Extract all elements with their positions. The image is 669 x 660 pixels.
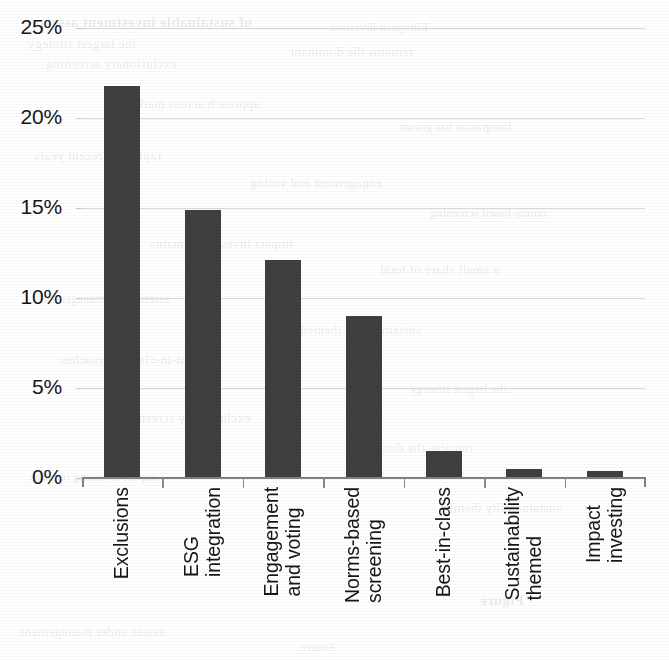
x-axis-category-label: ESG integration xyxy=(181,487,225,577)
y-axis-tick-label: 0% xyxy=(32,466,62,487)
x-axis-category-label: Impact investing xyxy=(583,487,627,563)
x-axis-left-endcap xyxy=(82,477,84,487)
gridline xyxy=(82,208,645,209)
x-axis-tick xyxy=(323,478,324,488)
bar xyxy=(265,260,301,478)
x-axis-right-endcap xyxy=(644,477,646,487)
x-axis-tick xyxy=(565,478,566,488)
bar xyxy=(104,86,140,478)
x-axis-line xyxy=(82,477,646,479)
y-axis-tick-label: 15% xyxy=(21,196,62,217)
bar xyxy=(185,210,221,478)
y-axis-tick-label: 20% xyxy=(21,106,62,127)
plot-area xyxy=(82,28,645,478)
bar-chart: 25%20%15%10%5%0% ExclusionsESG integrati… xyxy=(0,0,669,660)
x-axis-category-label: Exclusions xyxy=(111,487,133,579)
x-axis-category-label: Engagement and voting xyxy=(261,487,305,597)
gridline xyxy=(82,28,645,29)
x-axis-tick xyxy=(243,478,244,488)
bar xyxy=(426,451,462,478)
x-axis-tick xyxy=(404,478,405,488)
y-axis-tick-label: 25% xyxy=(21,16,62,37)
x-axis-tick xyxy=(162,478,163,488)
x-axis-tick xyxy=(484,478,485,488)
y-axis-tick-label: 10% xyxy=(21,286,62,307)
bar xyxy=(346,316,382,478)
x-axis-category-label: Norms-based screening xyxy=(342,487,386,603)
gridline xyxy=(82,298,645,299)
x-axis-category-label: Sustainability themed xyxy=(502,487,546,601)
y-axis-tick-label: 5% xyxy=(32,376,62,397)
gridline xyxy=(82,118,645,119)
x-axis-category-label: Best-in-class xyxy=(433,487,455,597)
